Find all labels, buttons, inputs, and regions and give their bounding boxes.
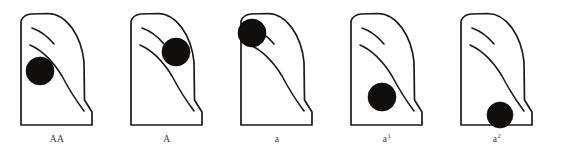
pigment-spot xyxy=(368,83,396,111)
panel-caption-AA: AA xyxy=(0,134,114,144)
caption-base: a xyxy=(275,134,280,144)
shell-panel-AA: AA xyxy=(0,0,114,165)
shell-panel-a1: a1 xyxy=(330,0,444,165)
pigment-spot xyxy=(487,102,513,128)
shell-drawing-a2 xyxy=(440,0,554,135)
caption-superscript: 1 xyxy=(387,132,391,139)
caption-base: AA xyxy=(50,134,65,144)
caption-base: A xyxy=(163,134,170,144)
pigment-spot xyxy=(238,19,266,47)
shell-drawing-a1 xyxy=(330,0,444,135)
shell-panel-a: a xyxy=(220,0,334,165)
pigment-spot xyxy=(26,57,54,85)
panel-caption-a1: a1 xyxy=(330,134,444,144)
shell-drawing-A xyxy=(110,0,224,135)
pigment-spot xyxy=(162,38,190,66)
allelic-series-figure: AA A a a xyxy=(0,0,573,165)
shell-drawing-a xyxy=(220,0,334,135)
panel-caption-a: a xyxy=(220,134,334,144)
shell-panel-A: A xyxy=(110,0,224,165)
shell-drawing-AA xyxy=(0,0,114,135)
panel-caption-A: A xyxy=(110,134,224,144)
panel-caption-a2: a2 xyxy=(440,134,554,144)
shell-panel-a2: a2 xyxy=(440,0,554,165)
caption-superscript: 2 xyxy=(497,132,501,139)
